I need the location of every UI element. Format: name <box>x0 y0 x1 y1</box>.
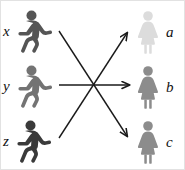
male-figure-y-body <box>18 66 52 108</box>
female-figure-icon <box>135 120 161 164</box>
node-label-x: x <box>3 24 10 39</box>
node-y[interactable]: y <box>3 64 52 108</box>
node-b[interactable]: b <box>135 65 174 109</box>
female-figure-c-body <box>138 121 158 164</box>
node-label-c: c <box>166 135 173 150</box>
edge-x-to-c <box>59 31 127 136</box>
node-label-a: a <box>166 25 174 40</box>
node-x[interactable]: x <box>3 9 52 53</box>
female-figure-a-body <box>138 11 158 54</box>
node-label-y: y <box>3 79 10 94</box>
male-figure-icon <box>11 119 51 163</box>
node-z[interactable]: z <box>3 119 51 163</box>
male-figure-x-body <box>18 11 52 53</box>
male-figure-z-body <box>17 121 51 163</box>
edge-z-to-a <box>59 33 127 138</box>
female-figure-icon <box>135 10 161 54</box>
node-label-b: b <box>166 80 174 95</box>
female-figure-icon <box>135 65 161 109</box>
node-a[interactable]: a <box>135 10 174 54</box>
node-label-z: z <box>3 134 9 149</box>
female-figure-b-body <box>138 66 158 109</box>
node-c[interactable]: c <box>135 120 173 164</box>
male-figure-icon <box>12 9 52 53</box>
male-figure-icon <box>12 64 52 108</box>
matching-diagram: x y z <box>0 0 185 170</box>
